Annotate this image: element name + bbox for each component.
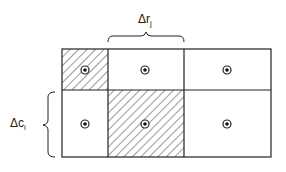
circled-dot-icon bbox=[141, 66, 149, 74]
row-height-label: Δci bbox=[10, 116, 26, 132]
column-label-symbol: Δr bbox=[138, 12, 150, 26]
circled-dot-icon bbox=[81, 120, 89, 128]
row-label-subscript: i bbox=[24, 123, 26, 132]
row-label-symbol: Δc bbox=[10, 116, 24, 130]
circled-dot-icon bbox=[223, 120, 231, 128]
column-label-subscript: j bbox=[150, 19, 152, 28]
column-brace-icon bbox=[108, 32, 184, 42]
circled-dot-icon bbox=[223, 66, 231, 74]
circled-dot-icon bbox=[81, 66, 89, 74]
circled-dot-icon bbox=[141, 120, 149, 128]
column-width-label: Δrj bbox=[138, 12, 152, 28]
row-brace-icon bbox=[43, 92, 55, 157]
